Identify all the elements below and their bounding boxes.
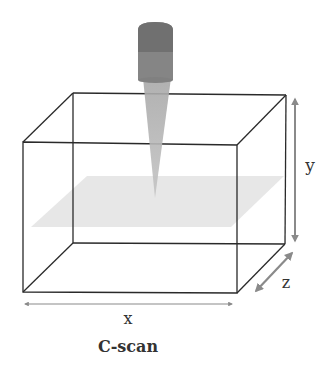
- x-axis-label: x: [123, 309, 132, 328]
- y-axis-label: y: [304, 155, 315, 175]
- c-scan-plane: [31, 176, 284, 227]
- diagram-title: C-scan: [98, 337, 158, 356]
- z-axis-label: z: [282, 273, 290, 292]
- transducer-icon: [138, 22, 173, 83]
- c-scan-diagram: x y z C-scan: [0, 0, 327, 370]
